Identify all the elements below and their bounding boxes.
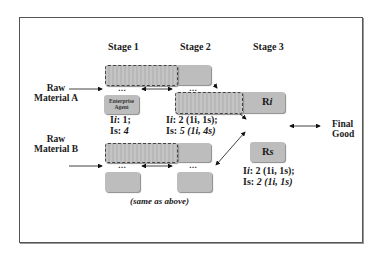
rs-to-b-arrow xyxy=(216,132,245,165)
arrows-layer xyxy=(0,0,379,255)
ri-down-arrow xyxy=(240,114,246,119)
chain-a-to-ri-arrow xyxy=(214,84,217,88)
